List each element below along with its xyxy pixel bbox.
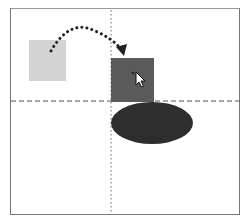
diagram-svg: [0, 0, 250, 224]
source-square[interactable]: [29, 40, 66, 81]
ellipse-shape[interactable]: [111, 102, 193, 144]
drag-point: [132, 72, 134, 74]
target-square[interactable]: [111, 58, 154, 102]
